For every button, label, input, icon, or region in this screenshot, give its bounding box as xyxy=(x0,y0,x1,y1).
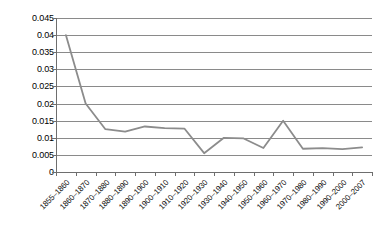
line-chart: 00.0050.010.0150.020.0250.030.0350.040.0… xyxy=(0,0,383,240)
data-series-layer xyxy=(0,0,383,240)
series-line xyxy=(66,35,362,153)
